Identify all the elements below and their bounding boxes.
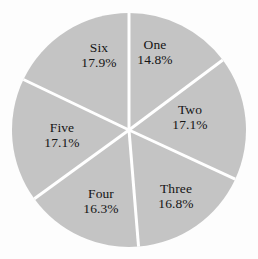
pie-chart-svg <box>0 0 258 259</box>
pie-chart: One14.8%Two17.1%Three16.8%Four16.3%Five1… <box>0 0 258 259</box>
